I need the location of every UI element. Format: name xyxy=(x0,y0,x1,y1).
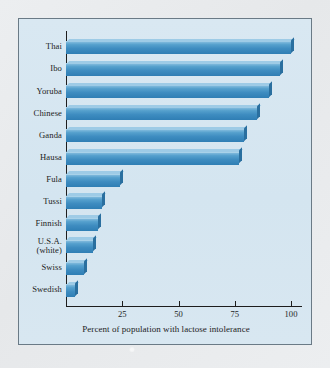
bar-face xyxy=(66,85,269,98)
category-label: Yoruba xyxy=(36,87,62,96)
bar-face xyxy=(66,107,257,120)
x-tick xyxy=(122,301,123,306)
category-label: Chinese xyxy=(34,109,62,118)
x-axis-title: Percent of population with lactose intol… xyxy=(19,324,313,334)
bar-face xyxy=(66,240,93,253)
bar-side-edge xyxy=(257,104,260,120)
bar-top-edge xyxy=(67,83,273,86)
bar-swiss xyxy=(66,262,84,275)
bar-side-edge xyxy=(93,236,96,252)
category-label: Tussi xyxy=(43,197,62,206)
bar-face xyxy=(66,174,120,187)
bar-top-edge xyxy=(67,149,243,152)
category-label: U.S.A.(white) xyxy=(36,237,62,255)
bar-u-s-a-white xyxy=(66,240,93,253)
bar-top-edge xyxy=(67,215,102,218)
category-label: Thai xyxy=(46,42,62,51)
bar-side-edge xyxy=(291,37,294,53)
category-label: Ibo xyxy=(50,64,62,73)
bar-face xyxy=(66,196,102,209)
x-tick xyxy=(291,301,292,306)
bar-top-edge xyxy=(67,61,284,64)
bar-side-edge xyxy=(239,148,242,164)
bar-thai xyxy=(66,41,291,54)
x-tick-label: 75 xyxy=(221,309,249,319)
bar-side-edge xyxy=(120,170,123,186)
bar-ganda xyxy=(66,129,244,142)
x-tick xyxy=(235,301,236,306)
bar-finnish xyxy=(66,218,98,231)
bar-side-edge xyxy=(102,192,105,208)
category-label: Ganda xyxy=(39,131,62,140)
bar-ibo xyxy=(66,63,280,76)
bar-side-edge xyxy=(98,214,101,230)
bar-face xyxy=(66,41,291,54)
bar-hausa xyxy=(66,152,239,165)
chart-panel: ThaiIboYorubaChineseGandaHausaFulaTussiF… xyxy=(18,18,312,345)
x-tick-label: 100 xyxy=(277,309,305,319)
x-tick-label: 50 xyxy=(165,309,193,319)
category-label: Swedish xyxy=(32,285,62,294)
plot-area: ThaiIboYorubaChineseGandaHausaFulaTussiF… xyxy=(19,19,313,346)
bar-face xyxy=(66,152,239,165)
bar-side-edge xyxy=(75,280,78,296)
bar-face xyxy=(66,284,75,297)
bar-face xyxy=(66,218,98,231)
category-label: Finnish xyxy=(36,219,63,228)
bar-face xyxy=(66,129,244,142)
bar-top-edge xyxy=(67,171,124,174)
category-label: Hausa xyxy=(40,153,62,162)
x-axis-line xyxy=(66,306,302,307)
bar-top-edge xyxy=(67,105,261,108)
bar-face xyxy=(66,262,84,275)
bar-side-edge xyxy=(84,258,87,274)
bar-top-edge xyxy=(67,39,295,42)
bar-side-edge xyxy=(244,126,247,142)
x-tick-label: 25 xyxy=(108,309,136,319)
bar-yoruba xyxy=(66,85,269,98)
bar-swedish xyxy=(66,284,75,297)
bar-top-edge xyxy=(67,127,248,130)
category-label: Swiss xyxy=(41,263,62,272)
category-label: Fula xyxy=(46,175,62,184)
bar-chinese xyxy=(66,107,257,120)
bar-tussi xyxy=(66,196,102,209)
x-tick xyxy=(179,301,180,306)
bar-side-edge xyxy=(280,59,283,75)
bar-side-edge xyxy=(269,81,272,97)
bar-fula xyxy=(66,174,120,187)
bar-face xyxy=(66,63,280,76)
bar-top-edge xyxy=(67,193,106,196)
